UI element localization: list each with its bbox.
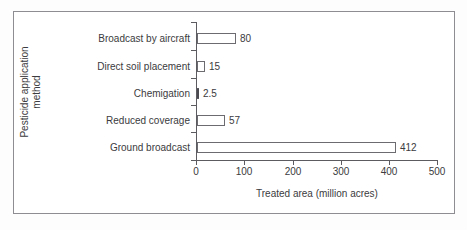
y-axis-category-label-4: Ground broadcast — [110, 142, 190, 154]
x-axis-tick — [293, 160, 294, 165]
x-axis-line — [196, 160, 438, 161]
bar-direct-soil-placement — [197, 61, 205, 72]
y-axis-title: Pesticide application method — [22, 22, 40, 161]
x-axis-tick — [341, 160, 342, 165]
x-axis-title: Treated area (million acres) — [196, 188, 438, 200]
x-axis-tick — [437, 160, 438, 165]
x-axis-tick-label-5: 500 — [429, 166, 446, 178]
y-axis-title-line-1: Pesticide application — [19, 46, 31, 137]
x-axis-tick — [389, 160, 390, 165]
y-axis-tick — [191, 132, 196, 133]
bar-value-label-2: 2.5 — [203, 88, 217, 100]
x-axis-tick-label-1: 100 — [236, 166, 253, 178]
y-axis-tick — [191, 50, 196, 51]
x-axis-tick-label-4: 400 — [381, 166, 398, 178]
x-axis-tick-label-3: 300 — [333, 166, 350, 178]
bar-ground-broadcast — [197, 142, 396, 153]
x-axis-tick — [196, 160, 197, 165]
x-axis-tick-label-2: 200 — [285, 166, 302, 178]
y-axis-category-label-0: Broadcast by aircraft — [98, 33, 190, 45]
y-axis-category-label-2: Chemigation — [134, 88, 190, 100]
bar-reduced-coverage — [197, 115, 225, 126]
bar-value-label-0: 80 — [240, 33, 251, 45]
y-axis-tick — [191, 105, 196, 106]
y-axis-tick — [191, 22, 196, 23]
y-axis-category-label-3: Reduced coverage — [106, 115, 190, 127]
bar-broadcast-by-aircraft — [197, 33, 236, 44]
chart-figure: Broadcast by aircraft Direct soil placem… — [0, 0, 467, 230]
x-axis-tick — [244, 160, 245, 165]
plot-area: Broadcast by aircraft Direct soil placem… — [0, 0, 467, 230]
bar-value-label-3: 57 — [229, 115, 240, 127]
x-axis-tick-label-0: 0 — [193, 166, 199, 178]
bar-value-label-4: 412 — [400, 142, 417, 154]
y-axis-tick — [191, 78, 196, 79]
y-axis-title-line-2: method — [31, 46, 43, 137]
y-axis-category-label-1: Direct soil placement — [97, 61, 190, 73]
bar-chemigation — [197, 88, 199, 99]
bar-value-label-1: 15 — [209, 61, 220, 73]
